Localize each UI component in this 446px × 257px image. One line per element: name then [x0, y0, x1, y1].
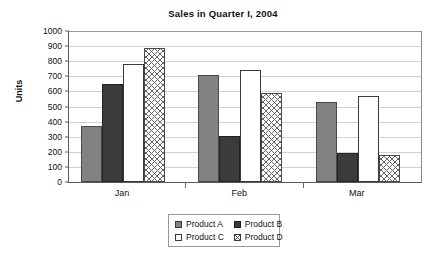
x-axis-separator: [185, 182, 186, 188]
bar-product-c-feb: [240, 70, 261, 182]
legend-swatch-icon: [234, 234, 241, 241]
bar-product-b-jan: [102, 84, 123, 182]
y-tick-label: 900: [48, 41, 62, 51]
x-axis-labels: JanFebMar: [68, 188, 420, 204]
y-tick-label: 400: [48, 117, 62, 127]
y-tick-label: 0: [57, 177, 62, 187]
bar-product-d-mar: [379, 155, 400, 182]
bar-product-c-mar: [358, 96, 379, 182]
bar-product-a-jan: [81, 126, 102, 182]
legend-item-product-a[interactable]: Product A: [175, 219, 224, 229]
bar-product-a-mar: [316, 102, 337, 182]
x-tick-label-mar: Mar: [349, 188, 365, 198]
legend-item-product-d[interactable]: Product D: [234, 232, 283, 242]
bar-product-d-jan: [144, 48, 165, 182]
legend-label: Product C: [186, 232, 224, 242]
y-tick-label: 200: [48, 147, 62, 157]
legend-label: Product A: [186, 219, 223, 229]
y-tick-label: 800: [48, 56, 62, 66]
bars-layer: [69, 31, 421, 182]
chart-legend: Product AProduct BProduct CProduct D: [168, 214, 280, 247]
legend-swatch-icon: [175, 234, 182, 241]
x-axis-separator: [303, 182, 304, 188]
y-tick-label: 1000: [43, 26, 62, 36]
bar-product-b-feb: [219, 136, 240, 182]
bar-product-b-mar: [337, 153, 358, 182]
legend-swatch-icon: [234, 221, 241, 228]
chart-title: Sales in Quarter I, 2004: [0, 8, 446, 19]
bar-product-a-feb: [198, 75, 219, 182]
legend-label: Product D: [245, 232, 283, 242]
legend-item-product-b[interactable]: Product B: [234, 219, 283, 229]
legend-label: Product B: [245, 219, 282, 229]
x-tick-label-jan: Jan: [115, 188, 130, 198]
y-axis-title: Units: [14, 61, 24, 121]
bar-product-d-feb: [261, 93, 282, 182]
bar-product-c-jan: [123, 64, 144, 182]
x-tick-label-feb: Feb: [232, 188, 248, 198]
y-tick-label: 700: [48, 71, 62, 81]
y-tick-label: 100: [48, 162, 62, 172]
legend-swatch-icon: [175, 221, 182, 228]
plot-area: 01002003004005006007008009001000: [68, 31, 422, 183]
legend-item-product-c[interactable]: Product C: [175, 232, 224, 242]
y-tick-label: 600: [48, 86, 62, 96]
y-tick-label: 500: [48, 102, 62, 112]
y-tick-label: 300: [48, 132, 62, 142]
